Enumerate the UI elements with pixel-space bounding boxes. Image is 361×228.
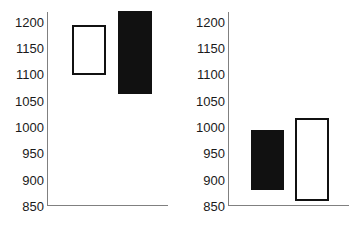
bar-filled-right [251,130,284,190]
bar-filled-left [118,11,152,94]
bar-open-left [72,25,106,75]
y-tick-label: 1150 [0,42,44,55]
y-axis-tick-labels-right: 1200 1150 1100 1050 1000 950 900 850 [181,0,225,228]
y-tick-label: 1050 [0,95,44,108]
y-tick-label: 950 [181,147,225,160]
y-tick-label: 900 [181,174,225,187]
y-tick-label: 850 [181,200,225,213]
y-tick-label: 1100 [181,68,225,81]
y-tick-label: 1200 [0,16,44,29]
y-tick-label: 1000 [181,121,225,134]
plot-area-right [229,12,349,206]
y-tick-label: 1000 [0,121,44,134]
y-tick-label: 900 [0,174,44,187]
y-tick-label: 1200 [181,16,225,29]
y-tick-label: 1100 [0,68,44,81]
y-axis-tick-labels-left: 1200 1150 1100 1050 1000 950 900 850 [0,0,44,228]
bar-open-right [295,118,329,201]
y-tick-label: 850 [0,200,44,213]
chart-panel-right: 1200 1150 1100 1050 1000 950 900 850 [181,0,361,228]
y-tick-label: 1150 [181,42,225,55]
chart-figure: 1200 1150 1100 1050 1000 950 900 850 120… [0,0,361,228]
chart-panel-left: 1200 1150 1100 1050 1000 950 900 850 [0,0,180,228]
plot-area-left [48,12,168,206]
y-tick-label: 1050 [181,95,225,108]
y-tick-label: 950 [0,147,44,160]
